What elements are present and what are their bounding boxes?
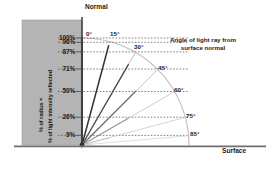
value-tick-50: 50%: [51, 88, 75, 95]
intensity-axis-label-line1: % of radius =: [38, 98, 44, 132]
angle-tick-30: 30°: [134, 44, 143, 51]
angle-annotation: Angle of light ray from surface normal: [160, 36, 246, 51]
angle-tick-60: 60°: [174, 87, 183, 94]
value-tick-87: 87%: [51, 49, 75, 56]
angle-tick-45: 45°: [158, 65, 167, 72]
angle-tick-85: 85°: [190, 131, 199, 138]
angle-tick-0: 0°: [86, 31, 92, 38]
value-tick-26: 26%: [51, 114, 75, 121]
normal-label: Normal: [85, 4, 108, 11]
angle-tick-75: 75°: [186, 113, 195, 120]
value-tick-96: 96%: [51, 39, 75, 46]
value-tick-9: 9%: [51, 132, 75, 139]
surface-label: Surface: [222, 148, 246, 155]
diagram-canvas: Normal Surface Angle of light ray from s…: [0, 0, 270, 173]
angle-tick-15: 15°: [110, 31, 119, 38]
value-tick-71: 71%: [51, 66, 75, 73]
